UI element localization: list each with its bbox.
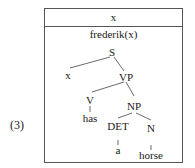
node-np: NP — [127, 100, 141, 112]
edge-vp-v — [92, 82, 124, 92]
edge-s-vp — [114, 57, 124, 71]
edge-np-n — [136, 113, 151, 120]
syntax-tree: S x VP V has NP DET N a horse — [0, 0, 195, 168]
node-n: N — [147, 122, 155, 134]
node-horse: horse — [139, 149, 163, 161]
node-has: has — [83, 112, 98, 124]
node-v: V — [86, 94, 94, 106]
node-x: x — [65, 69, 71, 81]
node-vp: VP — [119, 71, 133, 83]
edge-np-det — [118, 113, 132, 118]
edge-vp-np — [126, 82, 134, 96]
node-a: a — [116, 144, 121, 156]
node-s: S — [109, 46, 115, 58]
edge-s-x — [70, 57, 110, 68]
node-det: DET — [107, 120, 129, 132]
